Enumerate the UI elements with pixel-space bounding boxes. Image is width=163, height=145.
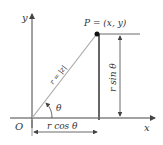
horizontal-length-label: r cos θ bbox=[47, 121, 78, 131]
radius-line bbox=[32, 35, 96, 118]
angle-arc bbox=[46, 103, 52, 118]
x-axis-label: x bbox=[144, 122, 150, 133]
y-axis-label: y bbox=[21, 12, 28, 23]
angle-label: θ bbox=[56, 103, 62, 113]
vertical-length-label: r sin θ bbox=[108, 63, 118, 92]
polar-form-diagram: y x O P = (x, y) θ r = |z| r cos θ r sin… bbox=[0, 0, 163, 145]
origin-label: O bbox=[15, 121, 23, 132]
point-label: P = (x, y) bbox=[83, 18, 127, 28]
point-p bbox=[95, 32, 100, 37]
